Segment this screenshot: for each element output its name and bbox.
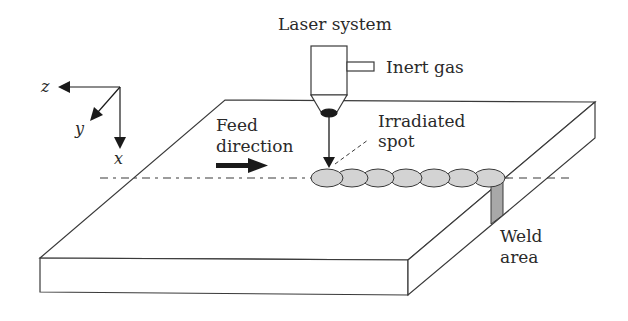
x-axis-label: x (114, 149, 123, 168)
weld-area-label-line2: area (500, 247, 538, 267)
irradiated-spot-label-line2: spot (378, 131, 415, 151)
weld-area-label-line1: Weld (500, 226, 543, 246)
weld-bead (418, 169, 450, 187)
feed-direction-label-line1: Feed (216, 115, 258, 135)
irradiated-spot-label-line1: Irradiated (378, 111, 465, 131)
inert-gas-label: Inert gas (386, 57, 464, 77)
weld-bead (311, 169, 343, 187)
laser-housing (311, 46, 347, 95)
weld-bead (390, 169, 422, 187)
laser-spot-icon (321, 109, 337, 117)
plate-front-face (40, 258, 408, 295)
weld-bead (446, 169, 478, 187)
x-axis-arrowhead-icon (114, 137, 126, 149)
feed-direction-label-line2: direction (216, 136, 294, 156)
laser-welding-diagram: z y x Laser system Inert gas Irradiated … (0, 0, 628, 321)
feed-arrow-shaft (216, 163, 250, 168)
y-axis-line (98, 87, 120, 112)
z-axis-arrowhead-icon (58, 81, 70, 93)
z-axis-label: z (40, 77, 50, 96)
inert-gas-tube (347, 62, 374, 71)
coordinate-axes (58, 81, 126, 149)
laser-system-label: Laser system (278, 14, 392, 34)
y-axis-label: y (74, 119, 85, 138)
